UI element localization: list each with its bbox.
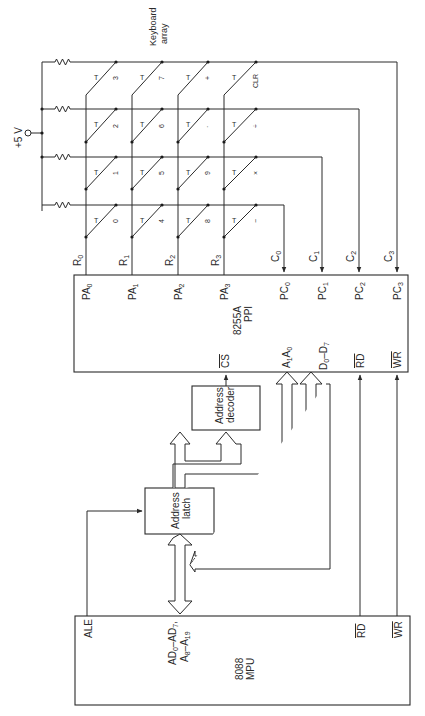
- svg-text:7: 7: [158, 76, 165, 80]
- svg-text:T: T: [186, 74, 191, 81]
- supply-terminal-icon: [25, 130, 31, 136]
- label-c2: C2: [345, 251, 357, 262]
- svg-text:4: 4: [158, 219, 165, 223]
- svg-text:·: ·: [204, 126, 211, 128]
- key-switch-2[interactable]: T2: [84, 107, 119, 143]
- pin-rd: RD: [355, 354, 366, 368]
- pin-wr: WR: [392, 351, 403, 368]
- ppi-subtitle: PPI: [243, 306, 254, 322]
- key-switch-minus[interactable]: T−: [222, 203, 259, 238]
- svg-text:array: array: [159, 23, 169, 44]
- supply-label: +5 V: [13, 127, 24, 148]
- key-switch-6[interactable]: T6: [130, 107, 165, 143]
- interface-diagram: +5 V T3 T2 T1 T0 T7: [0, 0, 425, 716]
- mpu-pin-rd: RD: [356, 624, 367, 638]
- svg-text:T: T: [232, 74, 237, 81]
- svg-text:÷: ÷: [252, 124, 259, 128]
- svg-text:1: 1: [112, 171, 119, 175]
- row-wires: [42, 59, 397, 272]
- pin-cs: CS: [220, 354, 231, 368]
- svg-text:T: T: [140, 74, 145, 81]
- svg-text:T: T: [140, 121, 145, 128]
- svg-text:decoder: decoder: [225, 386, 236, 423]
- key-switch-1[interactable]: T1: [84, 155, 119, 190]
- label-r1: R1: [118, 255, 130, 266]
- svg-text:−: −: [252, 219, 259, 223]
- key-switch-4[interactable]: T4: [130, 203, 165, 238]
- svg-text:Keyboard: Keyboard: [148, 7, 158, 46]
- resistor-icon: [52, 59, 74, 65]
- key-switch-7[interactable]: T7: [132, 60, 165, 95]
- svg-text:latch: latch: [181, 498, 192, 519]
- key-switch-5[interactable]: T5: [130, 155, 165, 190]
- svg-text:T: T: [94, 217, 99, 224]
- svg-text:T: T: [232, 121, 237, 128]
- resistor-icon: [52, 106, 74, 112]
- ppi-8255a: PA0 PA1 PA2 PA3 PC0 PC1 PC2 PC3 8255A PP…: [74, 275, 408, 372]
- keyboard-switches: T3 T2 T1 T0 T7 T6 T5 T4 T+ T· T9 T8 TCLR…: [84, 60, 259, 238]
- address-latch: Address latch: [145, 488, 214, 534]
- signal-labels: R0 R1 R2 R3 C0 C1 C2 C3: [72, 251, 395, 266]
- svg-text:6: 6: [158, 124, 165, 128]
- svg-text:T: T: [232, 169, 237, 176]
- key-switch-point[interactable]: T·: [176, 107, 211, 143]
- key-switch-divide[interactable]: T÷: [222, 107, 259, 143]
- svg-text:T: T: [140, 169, 145, 176]
- mpu-pin-wr: WR: [393, 621, 404, 638]
- svg-text:T: T: [186, 121, 191, 128]
- svg-text:Address: Address: [170, 492, 181, 529]
- keyboard-array-label: Keyboard array: [148, 7, 169, 46]
- svg-text:×: ×: [252, 171, 259, 175]
- resistor-icon: [52, 202, 74, 208]
- svg-text:T: T: [94, 169, 99, 176]
- ppi-title: 8255A: [232, 306, 243, 335]
- pin-d0-d7: D0–D7: [318, 342, 330, 370]
- mpu-subtitle: MPU: [245, 658, 256, 680]
- key-switch-8[interactable]: T8: [176, 203, 211, 238]
- svg-text:9: 9: [204, 171, 211, 175]
- ad-bus: [168, 534, 192, 614]
- mpu-title: 8088: [234, 657, 245, 680]
- label-c0: C0: [270, 251, 282, 262]
- svg-text:T: T: [94, 121, 99, 128]
- resistor-icon: [52, 154, 74, 160]
- label-r3: R3: [210, 255, 222, 266]
- svg-text:Address: Address: [214, 387, 225, 424]
- svg-text:3: 3: [112, 76, 119, 80]
- label-r2: R2: [164, 255, 176, 266]
- key-switch-9[interactable]: T9: [176, 155, 211, 190]
- address-decoder: Address decoder: [192, 375, 260, 430]
- svg-text:T: T: [94, 74, 99, 81]
- svg-text:CLR: CLR: [252, 74, 259, 88]
- svg-text:T: T: [186, 169, 191, 176]
- key-switch-plus[interactable]: T+: [178, 60, 211, 95]
- mpu-8088: ALE AD0–AD7, A8–A19 8088 MPU RD WR: [75, 616, 410, 705]
- svg-text:T: T: [186, 217, 191, 224]
- svg-text:T: T: [140, 217, 145, 224]
- key-switch-clr[interactable]: TCLR: [224, 60, 259, 95]
- svg-text:8: 8: [204, 219, 211, 223]
- key-switch-3[interactable]: T3: [86, 60, 119, 95]
- label-c3: C3: [383, 251, 395, 262]
- svg-text:T: T: [232, 217, 237, 224]
- label-r0: R0: [72, 255, 84, 266]
- key-switch-0[interactable]: T0: [84, 203, 119, 238]
- svg-text:2: 2: [112, 124, 119, 128]
- key-switch-multiply[interactable]: T×: [222, 155, 259, 190]
- pin-ale: ALE: [83, 619, 94, 638]
- svg-text:5: 5: [158, 171, 165, 175]
- label-c1: C1: [308, 251, 320, 262]
- svg-text:+: +: [204, 76, 211, 80]
- svg-text:0: 0: [112, 219, 119, 223]
- column-wires: [86, 95, 224, 275]
- power-supply: +5 V: [13, 62, 44, 211]
